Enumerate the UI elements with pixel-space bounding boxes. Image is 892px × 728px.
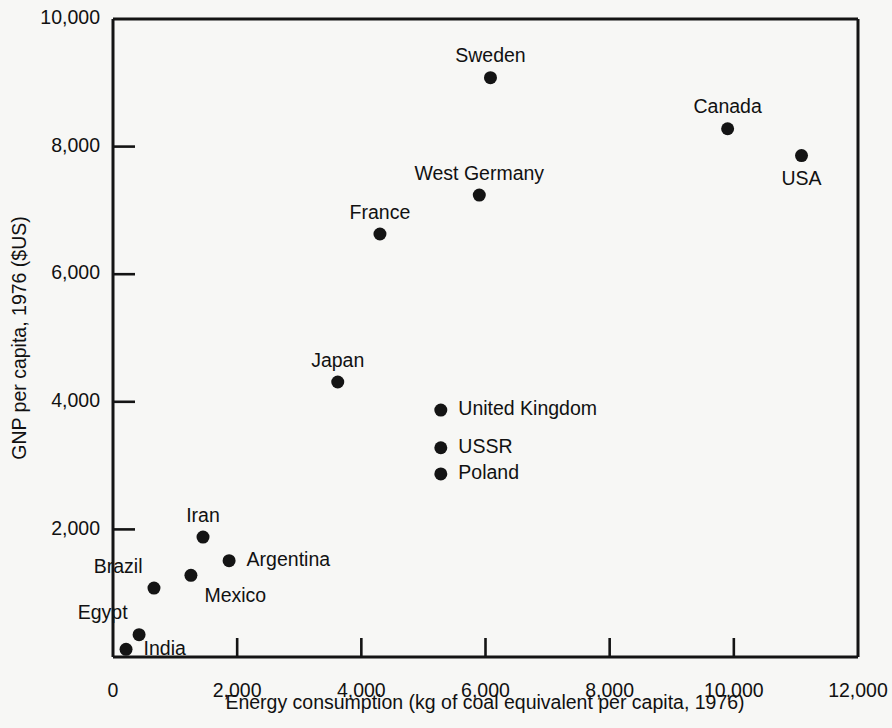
y-tick-label: 6,000: [51, 261, 100, 283]
y-tick-label: 10,000: [40, 6, 100, 28]
data-point: Poland: [434, 461, 519, 483]
x-axis-ticks: [237, 638, 734, 657]
data-point: Brazil: [94, 555, 161, 595]
data-point-marker: [184, 569, 197, 582]
data-point-marker: [795, 149, 808, 162]
data-point: France: [350, 201, 411, 241]
data-point-marker: [223, 554, 236, 567]
y-tick-label: 2,000: [51, 517, 100, 539]
y-tick-label: 4,000: [51, 389, 100, 411]
data-point-marker: [373, 228, 386, 241]
data-point-marker: [484, 71, 497, 84]
data-point-marker: [197, 531, 210, 544]
data-point-label: Argentina: [247, 548, 331, 570]
data-point-label: France: [350, 201, 411, 223]
data-point: Sweden: [455, 44, 525, 84]
data-point-label: Brazil: [94, 555, 143, 577]
y-tick-label: 8,000: [51, 134, 100, 156]
data-point-marker: [434, 467, 447, 480]
data-point-marker: [434, 441, 447, 454]
data-point-label: Japan: [311, 349, 364, 371]
data-point-marker: [147, 582, 160, 595]
x-axis-title: Energy consumption (kg of coal equivalen…: [225, 691, 744, 713]
data-point-marker: [721, 122, 734, 135]
data-point: USSR: [434, 435, 512, 457]
data-point-label: India: [144, 637, 186, 659]
data-point: Argentina: [223, 548, 331, 570]
data-point: West Germany: [414, 162, 544, 202]
data-point-label: Mexico: [204, 584, 266, 606]
data-point-marker: [120, 643, 133, 656]
data-point: Japan: [311, 349, 364, 389]
y-axis-ticks: [113, 147, 135, 530]
plot-canvas: 02,0004,0006,0008,00010,00012,000 2,0004…: [0, 0, 892, 728]
y-axis-tick-labels: 2,0004,0006,0008,00010,000: [40, 6, 100, 538]
data-point-marker: [331, 376, 344, 389]
data-point-label: Poland: [458, 461, 519, 483]
data-point: United Kingdom: [434, 397, 597, 419]
data-point-marker: [473, 189, 486, 202]
x-tick-label: 12,000: [828, 679, 888, 701]
data-point-series: SwedenCanadaUSAWest GermanyFranceJapanUn…: [78, 44, 822, 658]
data-point-label: United Kingdom: [458, 397, 597, 419]
y-axis-title: GNP per capita, 1976 ($US): [8, 216, 30, 460]
data-point: Canada: [693, 95, 761, 135]
data-point-label: West Germany: [414, 162, 544, 184]
x-tick-label: 0: [108, 679, 119, 701]
data-point-marker: [434, 404, 447, 417]
data-point: India: [120, 637, 186, 659]
data-point: Iran: [186, 504, 220, 544]
data-point-label: Iran: [186, 504, 220, 526]
data-point-label: Egypt: [78, 601, 128, 623]
data-point-label: USA: [781, 167, 821, 189]
data-point-label: Canada: [693, 95, 761, 117]
data-point: USA: [781, 149, 821, 189]
data-point-label: USSR: [458, 435, 512, 457]
scatter-plot-figure: 02,0004,0006,0008,00010,00012,000 2,0004…: [0, 0, 892, 728]
data-point: Mexico: [184, 569, 266, 606]
data-point-label: Sweden: [455, 44, 525, 66]
